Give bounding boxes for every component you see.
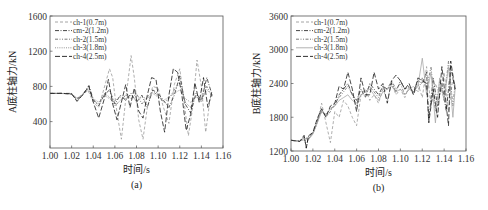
y-tick-label: 3600	[269, 12, 288, 22]
legend: ch-1(0.7m)cm-2(1.2m)ch-2(1.5m)ch-3(1.8m)…	[296, 18, 350, 61]
x-tick-label: 1.06	[107, 151, 124, 161]
y-tick-label: 800	[33, 82, 48, 92]
x-tick-label: 1.10	[150, 151, 167, 161]
y-axis-title: A底柱轴力/kN	[6, 51, 18, 113]
plot-area	[50, 56, 212, 140]
x-tick-label: 1.12	[171, 151, 188, 161]
legend-label-4: ch-4(2.5m)	[73, 52, 107, 61]
y-tick-label: 3000	[269, 45, 288, 55]
y-tick-label: 1200	[269, 147, 288, 157]
legend: ch-1(0.7m)cm-2(1.2m)ch-2(1.5m)ch-3(1.8m)…	[55, 18, 109, 61]
figure-caption: (b)	[373, 182, 385, 194]
y-tick-label: 1200	[28, 47, 47, 57]
chart-b-panel: 1.001.021.041.061.081.101.121.141.161200…	[244, 0, 488, 210]
x-axis-title: 时间/s	[123, 163, 150, 175]
y-tick-label: 1600	[28, 12, 47, 22]
y-tick-label: 1800	[269, 113, 288, 123]
chart-a-panel: 1.001.021.041.061.081.101.121.141.164008…	[0, 0, 244, 210]
x-tick-label: 1.14	[436, 154, 453, 164]
series-line-4	[50, 69, 212, 132]
y-axis-title: B底柱轴力/kN	[250, 53, 262, 115]
y-tick-label: 2400	[269, 79, 288, 89]
x-tick-label: 1.04	[326, 154, 343, 164]
x-tick-label: 1.02	[63, 151, 80, 161]
x-tick-label: 1.04	[85, 151, 102, 161]
y-tick-label: 400	[33, 117, 48, 127]
chart-a: 1.001.021.041.061.081.101.121.141.164008…	[0, 0, 244, 210]
x-tick-label: 1.16	[215, 151, 232, 161]
x-tick-label: 1.12	[414, 154, 431, 164]
series-line-1	[50, 76, 212, 113]
x-tick-label: 1.08	[128, 151, 145, 161]
x-tick-label: 1.10	[392, 154, 409, 164]
x-tick-label: 1.16	[458, 154, 475, 164]
x-tick-label: 1.06	[348, 154, 365, 164]
x-axis-title: 时间/s	[365, 166, 392, 178]
x-tick-label: 1.08	[370, 154, 387, 164]
chart-b: 1.001.021.041.061.081.101.121.141.161200…	[244, 0, 488, 210]
x-tick-label: 1.00	[42, 151, 59, 161]
legend-label-4: ch-4(2.5m)	[314, 52, 348, 61]
x-tick-label: 1.02	[305, 154, 322, 164]
x-tick-label: 1.14	[193, 151, 210, 161]
plot-area	[291, 58, 455, 148]
figure-caption: (a)	[131, 179, 142, 191]
series-line-3	[50, 90, 212, 102]
